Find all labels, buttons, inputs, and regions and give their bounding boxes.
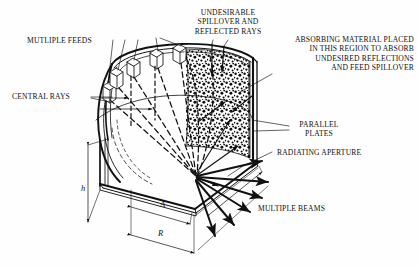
label-undesirable-spillover: UNDESIRABLE SPILLOVER AND REFLECTED RAYS: [180, 8, 276, 36]
label-absorbing-material: ABSORBING MATERIAL PLACED IN THIS REGION…: [258, 35, 414, 72]
label-parallel-plates: PARALLEL PLATES: [292, 120, 346, 139]
antenna-diagram-figure: MUTLIPLE FEEDS CENTRAL RAYS UNDESIRABLE …: [0, 0, 418, 266]
feed-block-2: [110, 68, 123, 89]
dimension-label-R: R: [158, 228, 163, 238]
multiple-beam-arrows: [196, 161, 268, 236]
feed-block-4: [150, 49, 163, 69]
cutaway-ghost-curve: [112, 120, 152, 184]
feed-block-3: [127, 58, 140, 78]
feed-reference-lines: [131, 66, 155, 126]
label-multiple-feeds: MUTLIPLE FEEDS: [27, 36, 92, 45]
label-central-rays: CENTRAL RAYS: [12, 92, 70, 101]
dimension-label-A: A: [160, 199, 165, 209]
absorbing-material-region: [180, 40, 260, 160]
label-multiple-beams: MULTIPLE BEAMS: [258, 204, 325, 213]
feed-block-5: [173, 44, 186, 64]
label-radiating-aperture: RADIATING APERTURE: [277, 148, 361, 157]
dimension-label-h: h: [81, 183, 85, 193]
